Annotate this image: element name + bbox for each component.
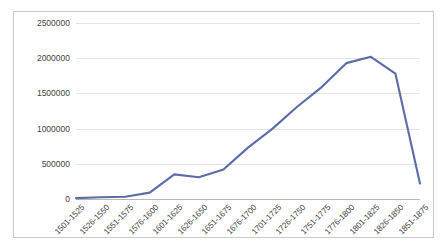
y-axis-tick-label: 1000000 [37, 124, 70, 134]
y-axis: 05000001000000150000020000002500000 [14, 23, 70, 199]
y-axis-tick-label: 2500000 [37, 18, 70, 28]
plot-area [76, 23, 420, 199]
chart-container: 05000001000000150000020000002500000 1501… [13, 11, 434, 238]
y-axis-tick-label: 1500000 [37, 88, 70, 98]
x-axis: 1501-15251526-15501551-15751576-16001601… [76, 201, 420, 247]
y-axis-tick-label: 0 [65, 194, 70, 204]
line-series-1 [76, 57, 420, 198]
y-axis-tick-label: 2000000 [37, 53, 70, 63]
line-series-svg [76, 23, 420, 199]
gridline [76, 199, 420, 200]
y-axis-tick-label: 500000 [42, 159, 70, 169]
